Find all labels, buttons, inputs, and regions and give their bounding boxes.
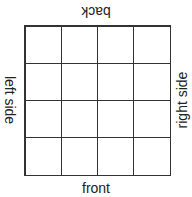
grid-cell-r2-c2 bbox=[61, 63, 98, 101]
square-grid bbox=[24, 25, 171, 176]
grid-cell-r3-c4 bbox=[133, 100, 170, 138]
grid-cell-r4-c4 bbox=[133, 137, 170, 175]
grid-cell-r1-c2 bbox=[61, 26, 98, 64]
grid-cell-r2-c4 bbox=[133, 63, 170, 101]
grid-cell-r1-c1 bbox=[25, 26, 62, 64]
grid-cell-r2-c1 bbox=[25, 63, 62, 101]
grid-cell-r4-c1 bbox=[25, 137, 62, 175]
grid-cell-r3-c1 bbox=[25, 100, 62, 138]
grid-cell-r1-c3 bbox=[97, 26, 134, 64]
grid-cell-r3-c3 bbox=[97, 100, 134, 138]
grid-cell-r2-c3 bbox=[97, 63, 134, 101]
left-side-label: left side bbox=[3, 76, 17, 124]
front-label: front bbox=[82, 181, 110, 195]
right-side-label: right side bbox=[175, 72, 189, 129]
back-label: back bbox=[81, 5, 111, 19]
grid-cell-r3-c2 bbox=[61, 100, 98, 138]
grid-cell-r1-c4 bbox=[133, 26, 170, 64]
grid-cell-r4-c2 bbox=[61, 137, 98, 175]
grid-cell-r4-c3 bbox=[97, 137, 134, 175]
